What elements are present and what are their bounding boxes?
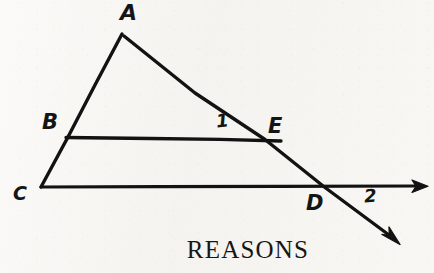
figure-caption: REASONS xyxy=(0,236,434,264)
segment-B-to-E xyxy=(66,138,281,142)
angle-label-2: 2 xyxy=(363,187,377,206)
ray-C-through-D xyxy=(41,186,416,187)
vertex-label-c: C xyxy=(13,184,27,203)
vertex-label-a: A xyxy=(120,2,137,24)
ray-A-through-E-and-D xyxy=(124,36,389,235)
geometry-figure: A B C D E 1 2 REASONS xyxy=(0,0,434,273)
vertex-label-d: D xyxy=(306,193,323,214)
angle-label-1: 1 xyxy=(215,111,229,130)
vertex-label-b: B xyxy=(42,112,58,133)
vertex-label-e: E xyxy=(268,116,282,137)
figure-canvas xyxy=(0,0,434,273)
